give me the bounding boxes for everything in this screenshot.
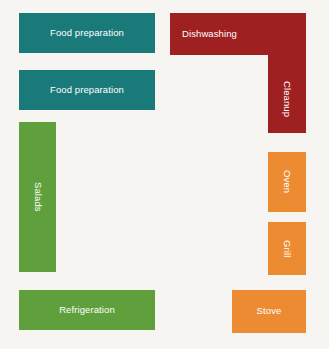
zone-label-salads: Salads [32, 182, 42, 212]
zone-food-preparation-lower[interactable]: Food preparation [19, 70, 155, 110]
zone-label-dishwashing: Dishwashing [182, 29, 237, 39]
zone-label-grill: Grill [282, 240, 292, 257]
zone-stove[interactable]: Stove [232, 290, 306, 333]
zone-label-oven: Oven [282, 170, 292, 193]
zone-label-refrigeration: Refrigeration [59, 305, 115, 315]
zone-label-food-preparation-lower: Food preparation [50, 85, 124, 95]
zone-oven[interactable]: Oven [268, 152, 306, 212]
zone-grill[interactable]: Grill [268, 222, 306, 275]
kitchen-layout-diagram: Food preparation Food preparation Salads… [0, 0, 329, 349]
zone-refrigeration[interactable]: Refrigeration [19, 290, 155, 330]
zone-label-cleanup: Cleanup [282, 81, 292, 117]
zone-food-preparation-upper[interactable]: Food preparation [19, 13, 155, 53]
zone-cleanup[interactable]: Cleanup [268, 13, 306, 133]
zone-salads[interactable]: Salads [19, 122, 56, 272]
zone-label-stove: Stove [257, 306, 282, 316]
zone-label-food-preparation-upper: Food preparation [50, 28, 124, 38]
